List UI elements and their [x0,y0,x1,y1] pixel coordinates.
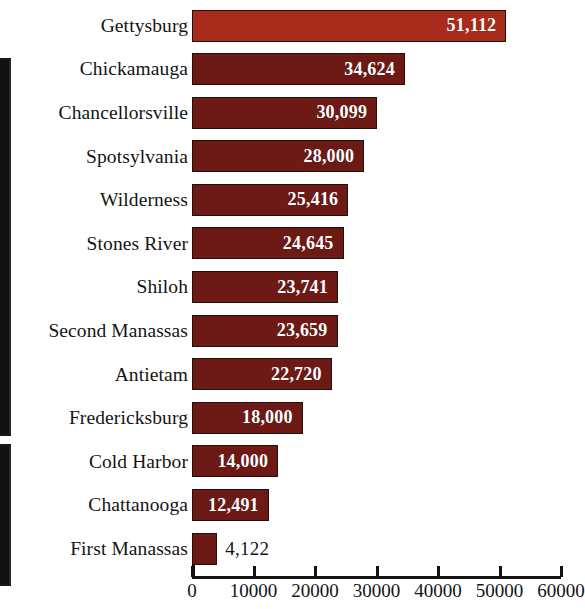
bar-value-label: 30,099 [316,102,376,123]
bar-value-label: 12,491 [208,495,268,516]
x-axis-tick [437,566,440,577]
bar-value-label: 28,000 [303,146,363,167]
category-label: Fredericksburg [0,396,188,440]
bar-track: 28,000 [192,135,584,179]
bar[interactable]: 30,099 [192,97,377,129]
x-axis-tick-label: 20000 [291,580,339,602]
x-axis-tick-label: 50000 [476,580,524,602]
bar-track: 23,741 [192,266,584,310]
bar[interactable]: 22,720 [192,358,332,390]
bar-track: 4,122 [192,527,584,571]
bar-value-label: 23,659 [277,320,337,341]
chart-row: Antietam22,720 [0,353,584,397]
bar[interactable]: 23,659 [192,315,338,347]
x-axis-tick [499,566,502,577]
bar-track: 18,000 [192,396,584,440]
chart-row: Stones River24,645 [0,222,584,266]
bar-value-label: 51,112 [447,15,506,36]
bar-value-label: 22,720 [271,364,331,385]
chart-row: Cold Harbor14,000 [0,440,584,484]
chart-row: Fredericksburg18,000 [0,396,584,440]
x-axis-tick-label: 0 [187,580,197,602]
bar[interactable] [192,533,217,565]
chart-row: Second Manassas23,659 [0,309,584,353]
bar-track: 24,645 [192,222,584,266]
bar-track: 34,624 [192,48,584,92]
chart-row: Chickamauga34,624 [0,48,584,92]
bar[interactable]: 23,741 [192,271,338,303]
bar[interactable]: 18,000 [192,402,303,434]
bar-track: 23,659 [192,309,584,353]
x-axis-tick-label: 30000 [353,580,401,602]
category-label: Stones River [0,222,188,266]
category-label: Chancellorsville [0,91,188,135]
bar[interactable]: 25,416 [192,184,348,216]
category-label: Spotsylvania [0,135,188,179]
bar[interactable]: 34,624 [192,53,405,85]
bar-track: 22,720 [192,353,584,397]
category-label: First Manassas [0,527,188,571]
category-label: Cold Harbor [0,440,188,484]
bar-value-label: 34,624 [344,59,404,80]
chart-row: Spotsylvania28,000 [0,135,584,179]
chart-row: Gettysburg51,112 [0,4,584,48]
x-axis-tick [560,566,563,577]
bar[interactable]: 28,000 [192,140,364,172]
bar-track: 51,112 [192,4,584,48]
chart-row: Chancellorsville30,099 [0,91,584,135]
x-axis-tick-label: 40000 [414,580,462,602]
chart-row: Chattanooga12,491 [0,484,584,528]
chart-row: Wilderness25,416 [0,178,584,222]
bar[interactable]: 14,000 [192,445,278,477]
category-label: Gettysburg [0,4,188,48]
category-label: Chickamauga [0,48,188,92]
chart-plot-area: Gettysburg51,112Chickamauga34,624Chancel… [0,4,584,576]
bar-value-label: 4,122 [217,533,269,565]
bar[interactable]: 12,491 [192,489,269,521]
bar-value-label: 23,741 [277,277,337,298]
category-label: Shiloh [0,266,188,310]
x-axis-tick [191,566,194,577]
x-axis-tick [376,566,379,577]
bar-track: 12,491 [192,484,584,528]
chart-row: First Manassas4,122 [0,527,584,571]
bar-track: 30,099 [192,91,584,135]
x-axis-tick [314,566,317,577]
bar-value-label: 25,416 [288,189,348,210]
x-axis-tick-label: 60000 [537,580,585,602]
x-axis-tick [253,566,256,577]
bar-track: 14,000 [192,440,584,484]
category-label: Antietam [0,353,188,397]
bar[interactable]: 51,112 [192,10,506,42]
category-label: Wilderness [0,178,188,222]
bar-value-label: 24,645 [283,233,343,254]
category-label: Second Manassas [0,309,188,353]
bar[interactable]: 24,645 [192,227,344,259]
category-label: Chattanooga [0,484,188,528]
x-axis-tick-label: 10000 [230,580,278,602]
bar-value-label: 14,000 [217,451,277,472]
bar-value-label: 18,000 [242,407,302,428]
bar-track: 25,416 [192,178,584,222]
chart-row: Shiloh23,741 [0,266,584,310]
